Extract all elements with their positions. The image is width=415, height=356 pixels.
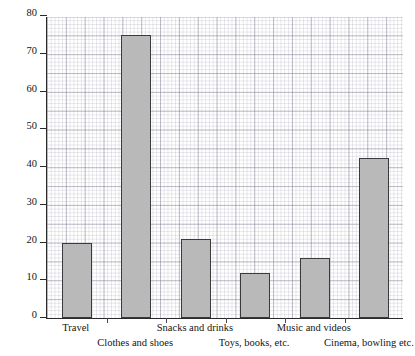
bar: [240, 273, 270, 318]
y-tick: 50: [40, 128, 47, 129]
x-axis-label: Toys, books, etc.: [219, 338, 290, 349]
x-axis-label: Music and videos: [277, 323, 351, 334]
y-tick-label: 20: [27, 235, 38, 246]
bar-chart-figure: Amount spent (£) 01020304050607080 Trave…: [0, 0, 415, 356]
x-axis-label: Snacks and drinks: [157, 323, 233, 334]
y-tick: 80: [40, 15, 47, 16]
y-tick-label: 10: [27, 272, 38, 283]
x-axis-label: Cinema, bowling etc.: [324, 338, 414, 349]
bar: [181, 239, 211, 318]
x-axis-label: Clothes and shoes: [97, 338, 173, 349]
x-tick: [107, 318, 108, 323]
y-tick-label: 0: [32, 310, 37, 321]
y-tick-label: 70: [27, 46, 38, 57]
y-tick: 10: [40, 279, 47, 280]
bar: [300, 258, 330, 318]
y-tick: 60: [40, 91, 47, 92]
y-tick-label: 40: [27, 159, 38, 170]
y-tick-label: 60: [27, 84, 38, 95]
y-tick-label: 30: [27, 197, 38, 208]
y-tick: 40: [40, 166, 47, 167]
plot-area: 01020304050607080: [46, 17, 403, 319]
y-tick: 0: [40, 317, 47, 318]
bar: [359, 158, 389, 318]
y-tick-label: 50: [27, 121, 38, 132]
bar: [62, 243, 92, 319]
y-tick: 20: [40, 242, 47, 243]
y-tick: 30: [40, 204, 47, 205]
x-axis-label: Travel: [62, 323, 89, 334]
y-tick: 70: [40, 53, 47, 54]
bar: [121, 35, 151, 318]
y-tick-label: 80: [27, 8, 38, 19]
